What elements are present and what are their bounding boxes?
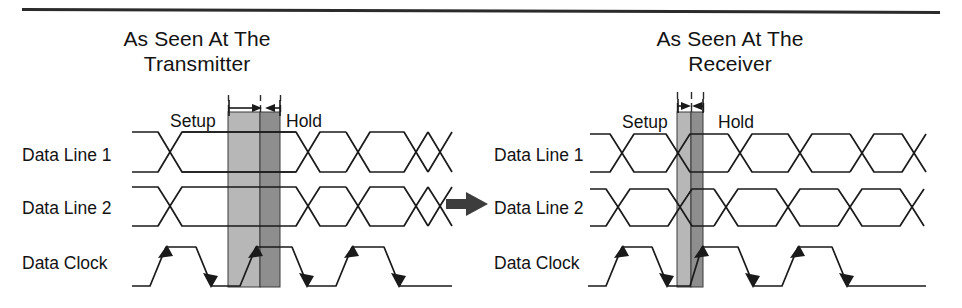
setup-label-transmitter: Setup (170, 111, 216, 131)
waveform-data-line-1-receiver (590, 134, 926, 172)
hold-band-transmitter (260, 112, 280, 287)
clock-edge-arrowheads-receiver (614, 245, 854, 288)
hold-label-receiver: Hold (718, 112, 754, 132)
timing-diagram-figure: As Seen At The Transmitter Data Line 1 D… (0, 0, 962, 308)
setup-band-transmitter (228, 112, 260, 287)
panel-transmitter: As Seen At The Transmitter Data Line 1 D… (0, 0, 470, 308)
waveform-data-line-1-transmitter (132, 132, 452, 172)
waveform-data-line-2-receiver (590, 189, 924, 226)
transmitter-waveforms: Setup Hold (0, 0, 470, 308)
setup-measure-arrow-receiver (678, 99, 691, 113)
hold-label-transmitter: Hold (286, 111, 322, 131)
waveform-data-line-2-transmitter (132, 187, 452, 226)
clock-edge-arrowheads-transmitter (158, 245, 406, 288)
hold-measure-arrow-receiver (692, 99, 703, 113)
receiver-waveforms: Setup Hold (470, 0, 962, 308)
panel-receiver: As Seen At The Receiver Data Line 1 Data… (470, 0, 962, 308)
waveform-data-clock-transmitter (132, 247, 452, 286)
setup-label-receiver: Setup (622, 112, 668, 132)
